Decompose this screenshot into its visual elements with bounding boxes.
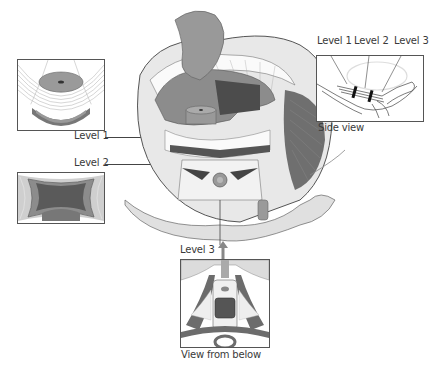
label-level-1: Level 1 [74, 130, 109, 141]
level-2-inset [17, 172, 105, 224]
label-level-3: Level 3 [180, 244, 215, 255]
side-view-illustration [317, 56, 423, 121]
side-view-label-level-1: Level 1 [317, 35, 352, 46]
level-1-inset [17, 59, 105, 131]
side-view-label-level-2: Level 2 [354, 35, 389, 46]
bottom-view-inset [180, 259, 270, 348]
side-view-inset [316, 55, 424, 122]
arrow-up-icon [218, 241, 228, 261]
bottom-view-caption: View from below [181, 349, 261, 360]
level-1-cross-section-illustration [18, 60, 104, 130]
label-level-2: Level 2 [74, 157, 109, 168]
side-view-caption: Side view [318, 122, 364, 133]
side-view-label-level-3: Level 3 [394, 35, 429, 46]
bottom-view-illustration [181, 260, 269, 347]
level-2-cross-section-illustration [18, 173, 104, 223]
